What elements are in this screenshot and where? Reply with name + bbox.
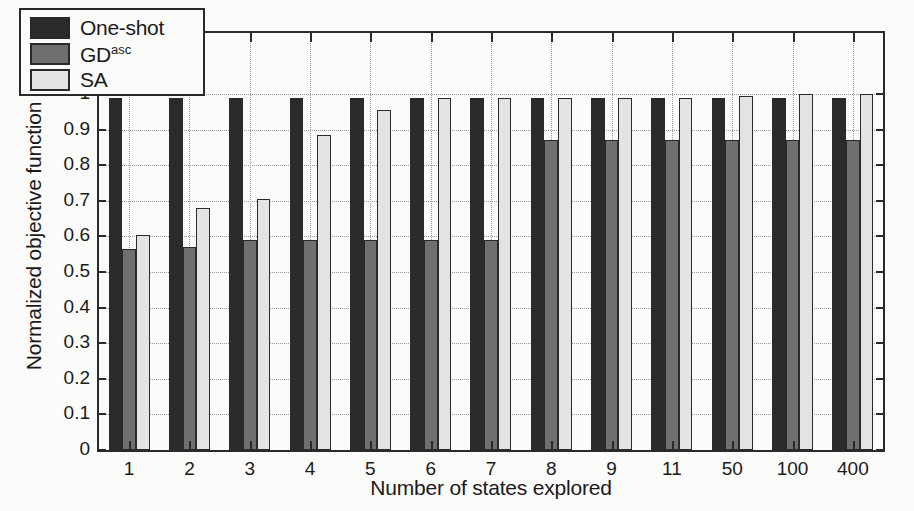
x-axis-tick bbox=[853, 441, 855, 450]
y-axis-tick-right bbox=[876, 378, 883, 380]
bar-gdasc-11 bbox=[665, 140, 679, 450]
legend-label: GDasc bbox=[80, 42, 131, 67]
bar-sa-8 bbox=[558, 98, 572, 450]
y-axis-tick-label: 0.2 bbox=[46, 367, 90, 389]
bar-sa-6 bbox=[438, 98, 452, 450]
y-axis-tick-label: 0 bbox=[46, 438, 90, 460]
bar-sa-7 bbox=[498, 98, 512, 450]
x-axis-tick-label: 3 bbox=[244, 458, 255, 480]
bar-one-shot-100 bbox=[772, 98, 786, 450]
y-axis-tick-right bbox=[876, 200, 883, 202]
bar-one-shot-6 bbox=[410, 98, 424, 450]
y-axis-tick bbox=[99, 235, 106, 237]
bar-sa-2 bbox=[196, 208, 210, 450]
y-axis-tick-label: 0.6 bbox=[46, 224, 90, 246]
x-axis-tick bbox=[250, 441, 252, 450]
y-axis-tick-right bbox=[876, 307, 883, 309]
x-axis-tick bbox=[189, 441, 191, 450]
x-axis-tick bbox=[310, 441, 312, 450]
x-axis-tick-label: 2 bbox=[184, 458, 195, 480]
y-axis-tick bbox=[99, 129, 106, 131]
x-axis-tick-top bbox=[370, 33, 372, 42]
x-axis-tick-label: 6 bbox=[425, 458, 436, 480]
bar-sa-9 bbox=[618, 98, 632, 450]
y-axis-tick-right bbox=[876, 271, 883, 273]
bar-one-shot-11 bbox=[651, 98, 665, 450]
bar-one-shot-9 bbox=[591, 98, 605, 450]
bar-gdasc-400 bbox=[846, 140, 860, 450]
y-axis-tick-label: 0.5 bbox=[46, 260, 90, 282]
y-axis-tick-label: 0.4 bbox=[46, 296, 90, 318]
legend-swatch-one-shot bbox=[30, 17, 70, 39]
bar-gdasc-100 bbox=[786, 140, 800, 450]
x-axis-tick-label: 1 bbox=[124, 458, 135, 480]
bar-one-shot-50 bbox=[712, 98, 726, 450]
y-axis-tick-right bbox=[876, 129, 883, 131]
y-axis-tick-right bbox=[876, 449, 883, 451]
bar-one-shot-8 bbox=[531, 98, 545, 450]
x-axis-tick-label: 4 bbox=[305, 458, 316, 480]
x-axis-tick-top bbox=[853, 33, 855, 42]
x-axis-tick-top bbox=[431, 33, 433, 42]
y-axis-tick-right bbox=[876, 93, 883, 95]
legend-swatch-gd bbox=[30, 43, 70, 65]
bar-gdasc-5 bbox=[364, 240, 378, 450]
x-axis-tick bbox=[431, 441, 433, 450]
bar-sa-3 bbox=[257, 199, 271, 450]
legend-item-one-shot: One-shot bbox=[30, 16, 164, 40]
x-axis-tick bbox=[793, 441, 795, 450]
x-axis-tick-top bbox=[732, 33, 734, 42]
bar-sa-1 bbox=[136, 235, 150, 450]
plot-area bbox=[97, 31, 885, 452]
y-axis-tick-right bbox=[876, 164, 883, 166]
chart-legend: One-shotGDascSA bbox=[19, 8, 205, 96]
y-axis-tick bbox=[99, 449, 106, 451]
y-axis-tick bbox=[99, 413, 106, 415]
legend-item-sa: SA bbox=[30, 68, 107, 92]
bar-gdasc-2 bbox=[183, 247, 197, 450]
x-axis-tick bbox=[732, 441, 734, 450]
bar-one-shot-5 bbox=[350, 98, 364, 450]
bar-sa-5 bbox=[377, 110, 391, 450]
y-axis-tick-label: 0.3 bbox=[46, 331, 90, 353]
legend-swatch-sa bbox=[30, 69, 70, 91]
bar-one-shot-3 bbox=[229, 98, 243, 450]
legend-label: One-shot bbox=[80, 16, 164, 40]
x-axis-tick-top bbox=[250, 33, 252, 42]
x-axis-tick-top bbox=[491, 33, 493, 42]
y-axis-tick bbox=[99, 342, 106, 344]
x-axis-tick-label: 9 bbox=[606, 458, 617, 480]
x-axis-tick bbox=[370, 441, 372, 450]
y-axis-tick bbox=[99, 307, 106, 309]
bar-sa-11 bbox=[679, 98, 693, 450]
y-axis-tick bbox=[99, 378, 106, 380]
y-axis-tick bbox=[99, 164, 106, 166]
y-axis-tick-right bbox=[876, 235, 883, 237]
bar-gdasc-9 bbox=[605, 140, 619, 450]
plot-panel bbox=[99, 33, 883, 450]
x-axis-tick-top bbox=[612, 33, 614, 42]
x-axis-tick bbox=[672, 441, 674, 450]
x-axis-tick-label: 7 bbox=[486, 458, 497, 480]
bar-sa-50 bbox=[739, 96, 753, 450]
figure-canvas: Normalized objective function Number of … bbox=[0, 0, 914, 511]
x-axis-tick-label: 400 bbox=[837, 458, 869, 480]
bar-sa-400 bbox=[860, 94, 874, 450]
y-axis-tick-label: 0.1 bbox=[46, 402, 90, 424]
bar-one-shot-400 bbox=[832, 98, 846, 450]
x-axis-tick bbox=[612, 441, 614, 450]
bar-gdasc-3 bbox=[243, 240, 257, 450]
x-axis-tick bbox=[551, 441, 553, 450]
bar-gdasc-1 bbox=[122, 249, 136, 450]
bar-gdasc-4 bbox=[303, 240, 317, 450]
legend-label: SA bbox=[80, 68, 107, 92]
y-axis-tick-label: 0.8 bbox=[46, 153, 90, 175]
x-axis-tick-label: 100 bbox=[777, 458, 809, 480]
bar-gdasc-50 bbox=[725, 140, 739, 450]
x-axis-tick bbox=[129, 441, 131, 450]
x-axis-tick-top bbox=[551, 33, 553, 42]
x-axis-tick-top bbox=[793, 33, 795, 42]
x-axis-tick-label: 50 bbox=[722, 458, 743, 480]
x-axis-tick-label: 5 bbox=[365, 458, 376, 480]
x-axis-tick-label: 11 bbox=[662, 458, 682, 480]
